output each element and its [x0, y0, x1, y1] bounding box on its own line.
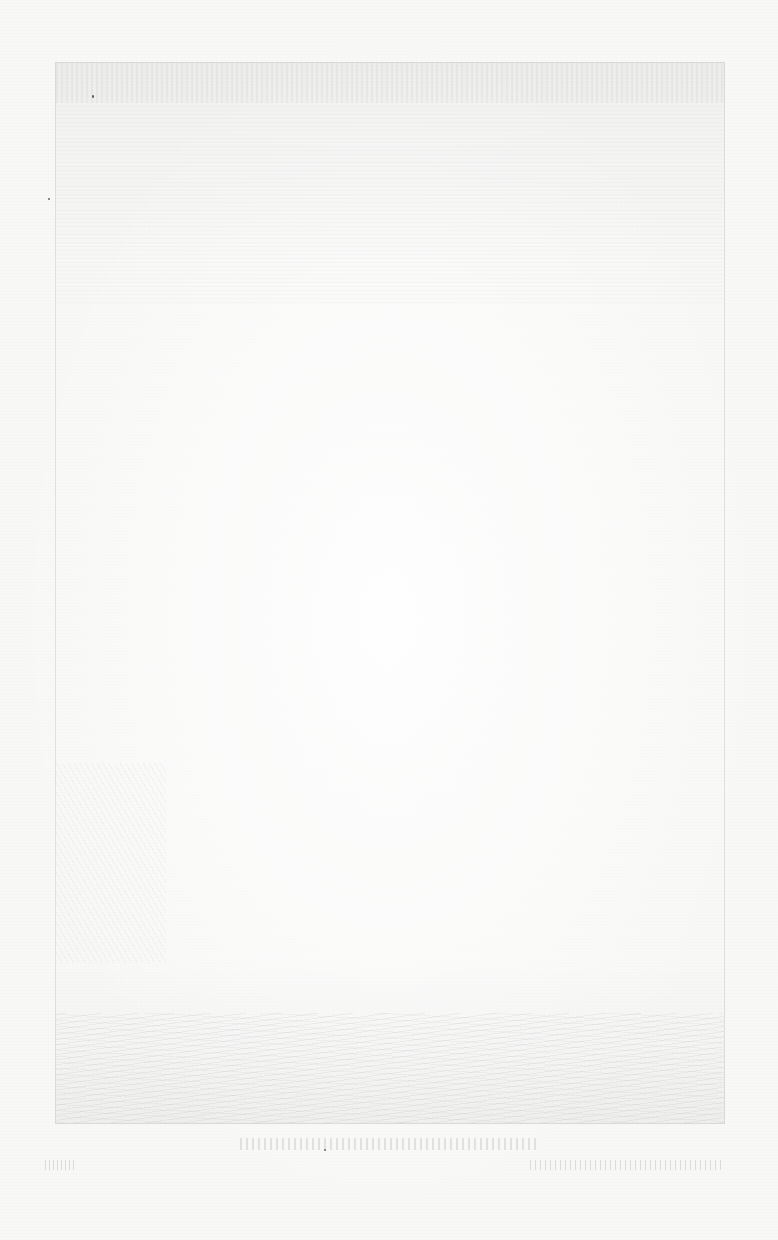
ink-speck: [92, 95, 94, 98]
ink-speck: [48, 198, 50, 200]
plate-caption-illegible: [240, 1138, 540, 1150]
scanned-page: [0, 0, 778, 1240]
footer-left-illegible: [45, 1160, 75, 1170]
footer-right-illegible: [530, 1160, 725, 1170]
plate-sky-hatching: [56, 103, 724, 303]
engraving-plate-bleedthrough: [55, 62, 725, 1124]
plate-top-hatching: [56, 63, 724, 103]
plate-left-shading: [56, 763, 166, 963]
plate-ground-hatching: [56, 1013, 724, 1123]
